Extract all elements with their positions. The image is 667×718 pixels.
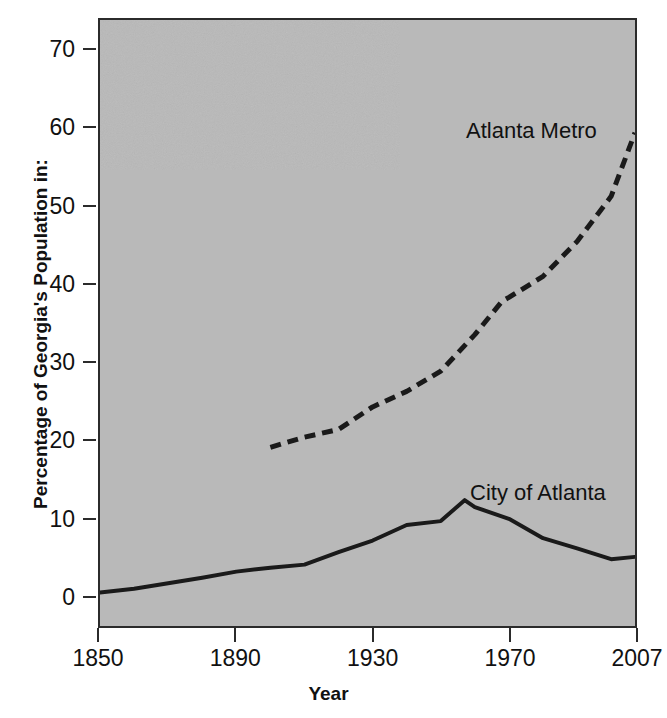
series-line-city-of-atlanta bbox=[100, 500, 635, 592]
x-tick-label: 1930 bbox=[313, 645, 433, 672]
x-tick-mark bbox=[372, 628, 374, 642]
series-label-atlanta-metro: Atlanta Metro bbox=[466, 118, 597, 144]
x-tick-label: 1850 bbox=[38, 645, 158, 672]
x-tick-mark bbox=[636, 628, 638, 642]
y-tick-mark bbox=[83, 205, 96, 207]
x-tick-mark bbox=[509, 628, 511, 642]
y-tick-mark bbox=[83, 518, 96, 520]
y-tick-mark bbox=[83, 361, 96, 363]
series-label-city-of-atlanta: City of Atlanta bbox=[470, 480, 606, 506]
y-tick-mark bbox=[83, 596, 96, 598]
y-tick-label: 70 bbox=[29, 36, 75, 63]
x-axis-title: Year bbox=[0, 683, 657, 705]
y-tick-mark bbox=[83, 126, 96, 128]
plot-area bbox=[98, 18, 637, 628]
y-tick-mark bbox=[83, 439, 96, 441]
y-tick-mark bbox=[83, 283, 96, 285]
x-tick-label: 2007 bbox=[577, 645, 667, 672]
x-tick-label: 1890 bbox=[175, 645, 295, 672]
y-axis-title: Percentage of Georgia's Population in: bbox=[30, 74, 52, 594]
y-tick-mark bbox=[83, 48, 96, 50]
x-tick-label: 1970 bbox=[450, 645, 570, 672]
x-tick-mark bbox=[234, 628, 236, 642]
series-line-atlanta-metro bbox=[270, 133, 635, 448]
x-tick-mark bbox=[97, 628, 99, 642]
series-canvas bbox=[100, 20, 635, 626]
